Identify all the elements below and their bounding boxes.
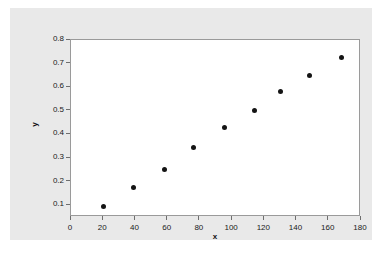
data-point [191,145,196,150]
data-point [101,204,106,209]
x-tick-mark [360,216,361,220]
scatter-plot-figure: 0.10.20.30.40.50.60.70.8 y 0204060801001… [0,0,382,255]
plot-area [70,39,360,216]
y-tick-mark [66,109,70,110]
y-tick-mark [66,39,70,40]
y-tick-mark [66,86,70,87]
y-tick-mark [66,133,70,134]
y-tick-label: 0.3 [53,151,64,162]
x-tick-mark [70,216,71,220]
data-points-layer [71,40,359,215]
x-tick-mark [198,216,199,220]
y-tick-label: 0.1 [53,198,64,209]
x-tick-mark [102,216,103,220]
plot-canvas: 0.10.20.30.40.50.60.70.8 y 0204060801001… [10,8,372,240]
y-tick-mark [66,62,70,63]
data-point [278,89,283,94]
y-tick-label: 0.6 [53,80,64,91]
x-axis-title: x [70,232,360,242]
y-axis-title: y [30,122,39,126]
y-tick-label: 0.2 [53,175,64,186]
y-tick-mark [66,204,70,205]
y-tick-mark [66,157,70,158]
data-point [162,167,167,172]
x-tick-mark [134,216,135,220]
data-point [222,125,227,130]
data-point [339,55,344,60]
y-tick-label: 0.4 [53,127,64,138]
y-tick-label: 0.7 [53,57,64,68]
data-point [131,185,136,190]
y-tick-mark [66,180,70,181]
y-tick-label: 0.5 [53,104,64,115]
x-tick-mark [231,216,232,220]
data-point [307,73,312,78]
data-point [252,108,257,113]
x-tick-mark [263,216,264,220]
y-tick-label: 0.8 [53,33,64,44]
x-tick-mark [295,216,296,220]
x-tick-mark [327,216,328,220]
x-tick-mark [166,216,167,220]
